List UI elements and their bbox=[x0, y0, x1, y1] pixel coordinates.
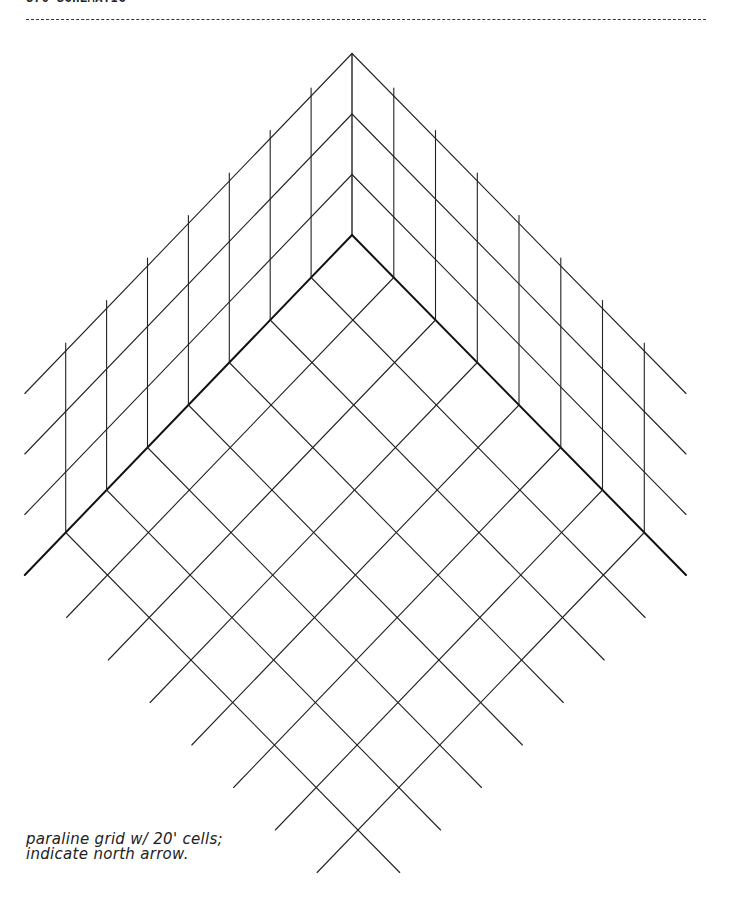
handwritten-note: paraline grid w/ 20' cells; indicate nor… bbox=[26, 832, 223, 862]
floor-grid-line bbox=[107, 490, 441, 830]
floor-grid-line bbox=[66, 533, 400, 873]
floor-grid-line bbox=[234, 448, 561, 788]
floor-grid-line bbox=[192, 405, 519, 745]
note-line-2: indicate north arrow. bbox=[26, 847, 223, 862]
paraline-grid-diagram bbox=[0, 0, 730, 909]
floor-grid-line bbox=[317, 533, 644, 873]
floor-grid-line bbox=[148, 448, 482, 788]
floor-grid-line bbox=[275, 490, 602, 830]
